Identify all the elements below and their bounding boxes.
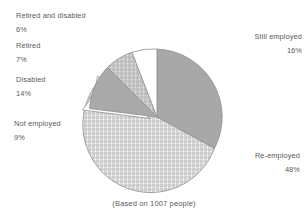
pie-label-not-employed-percent: 9%	[14, 134, 61, 142]
pie-label-disabled: Disabled 14%	[16, 76, 46, 98]
pie-label-re-employed-name: Re-employed	[255, 152, 300, 160]
pie-label-retired-and-disabled-name: Retired and disabled	[16, 12, 86, 20]
chart-caption: (Based on 1007 people)	[0, 199, 308, 208]
pie-label-not-employed-name: Not employed	[14, 120, 61, 128]
pie-label-disabled-percent: 14%	[16, 90, 46, 98]
pie-label-still-employed: Still employed 16%	[255, 33, 302, 55]
pie-label-still-employed-percent: 16%	[255, 47, 302, 55]
pie-label-retired-and-disabled: Retired and disabled 6%	[16, 12, 86, 34]
pie-label-retired-and-disabled-percent: 6%	[16, 26, 86, 34]
pie-label-still-employed-name: Still employed	[255, 33, 302, 41]
pie-label-not-employed: Not employed 9%	[14, 120, 61, 142]
pie-chart-figure: Retired and disabled 6% Retired 7% Disab…	[0, 0, 308, 220]
pie-label-re-employed: Re-employed 48%	[255, 152, 300, 174]
pie-label-disabled-name: Disabled	[16, 76, 46, 84]
pie-label-retired-percent: 7%	[16, 56, 41, 64]
pie-label-retired: Retired 7%	[16, 42, 41, 64]
pie-label-re-employed-percent: 48%	[255, 166, 300, 174]
pie-label-retired-name: Retired	[16, 42, 41, 50]
